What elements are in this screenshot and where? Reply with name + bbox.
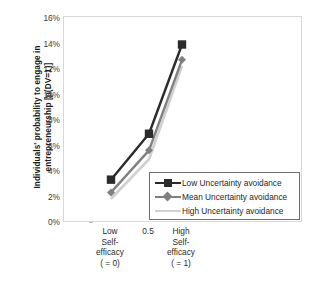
x-category-line: Low [96, 226, 124, 237]
x-category-line: High [167, 226, 195, 237]
y-tick-label: 16% [30, 13, 60, 23]
legend-swatch-mean-icon [154, 191, 182, 203]
data-point-marker [145, 130, 153, 138]
x-category-high: HighSelf-efficacy( = 1) [167, 226, 195, 268]
y-tick-label: 14% [30, 39, 60, 49]
x-category-line: efficacy [167, 247, 195, 258]
x-category-line: Self- [96, 237, 124, 248]
legend-swatch-high-icon [154, 205, 182, 217]
chart-legend: Low Uncertainty avoidance Mean Uncertain… [149, 172, 300, 220]
y-tick-label: 8% [30, 115, 60, 125]
x-category-line: ( = 0) [96, 258, 124, 269]
legend-swatch-low-icon [154, 177, 182, 189]
y-axis-tick-labels: 16% 14% 12% 10% 8% 6% 4% 2% 0% [30, 0, 60, 289]
legend-item-low: Low Uncertainty avoidance [154, 176, 295, 190]
legend-label-low: Low Uncertainty avoidance [182, 177, 282, 189]
legend-item-high: High Uncertainty avoidance [154, 204, 295, 218]
x-category-low: LowSelf-efficacy( = 0) [96, 226, 124, 268]
x-category-line: 0.5 [142, 226, 154, 237]
x-axis-category-labels: LowSelf-efficacy( = 0) 0.5 HighSelf-effi… [63, 226, 302, 286]
data-point-marker [107, 175, 115, 183]
data-point-marker [178, 40, 186, 48]
series-line [111, 45, 182, 180]
y-tick-label: 4% [30, 166, 60, 176]
y-axis-title-container: Individuals' probability to engage in en… [0, 0, 34, 230]
y-tick-label: 10% [30, 90, 60, 100]
y-tick-label: 2% [30, 192, 60, 202]
legend-item-mean: Mean Uncertainty avoidance [154, 190, 295, 204]
legend-label-mean: Mean Uncertainty avoidance [182, 191, 287, 203]
x-category-mid: 0.5 [142, 226, 154, 237]
y-tick-label: 12% [30, 64, 60, 74]
interaction-plot-figure: Individuals' probability to engage in en… [0, 0, 311, 289]
x-category-line: efficacy [96, 247, 124, 258]
legend-label-high: High Uncertainty avoidance [182, 205, 283, 217]
y-tick-label: 6% [30, 141, 60, 151]
x-category-line: ( = 1) [167, 258, 195, 269]
x-category-line: Self- [167, 237, 195, 248]
y-tick-label: 0% [30, 217, 60, 227]
data-point-marker [178, 56, 186, 64]
